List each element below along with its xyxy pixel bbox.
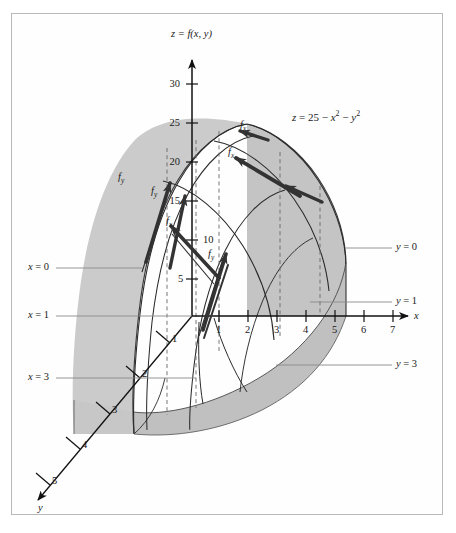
z-tick-label-5: 5 (178, 274, 183, 285)
trace-label-x0-value: 0 (44, 261, 49, 272)
x-tick-label-2: 2 (245, 325, 250, 336)
surface-equation: z = 25 − x2 − y2 (292, 110, 360, 123)
x-tick-label-1: 1 (216, 325, 221, 336)
trace-label-y1-var: y (396, 295, 401, 306)
trace-label-x1-value: 1 (44, 309, 49, 320)
fx-top-right-sub: x (243, 124, 246, 133)
y-tick-label-5: 5 (52, 476, 57, 487)
trace-label-y3-var: y (396, 358, 401, 369)
derivative-label-fx-center: fx (166, 216, 172, 228)
z-tick-label-10: 10 (203, 235, 214, 246)
trace-label-y3: y = 3 (396, 359, 417, 370)
trace-label-y3-eq: = (403, 358, 412, 369)
fy-lower-center-sub: y (211, 253, 214, 262)
x-tick-label-3: 3 (274, 325, 279, 336)
equation-lhs: z (292, 111, 296, 123)
equation-exp-x: 2 (336, 109, 340, 118)
trace-label-y0-eq: = (403, 241, 412, 252)
trace-label-x0-var: x (28, 261, 33, 272)
tangent-fy-left-inner (170, 196, 185, 268)
derivative-label-fy-lower-center: fy (208, 249, 214, 261)
trace-label-y1: y = 1 (396, 296, 417, 307)
trace-label-y0: y = 0 (396, 242, 417, 253)
trace-label-y1-value: 1 (412, 295, 417, 306)
fy-left-inner-sub: y (154, 190, 157, 199)
derivative-label-fx-upper-mid: fx (228, 147, 234, 159)
derivative-label-fy-left-inner: fy (151, 186, 157, 198)
y-axis-label: y (38, 503, 43, 514)
derivative-label-fx-top-right: fx (240, 120, 246, 132)
figure-container: z = f(x, y) x y 30 25 20 15 10 5 1 2 3 4… (0, 0, 456, 533)
x-axis-label: x (414, 311, 419, 322)
y-tick-label-4: 4 (82, 440, 87, 451)
trace-label-x1-eq: = (35, 309, 44, 320)
fy-far-left-sub: y (121, 176, 124, 185)
fx-upper-mid-sub: x (231, 151, 234, 160)
trace-label-x1-var: x (28, 309, 33, 320)
z-axis-label: z = f(x, y) (171, 29, 212, 40)
y-tick-label-3: 3 (112, 405, 117, 416)
y-tick-label-2: 2 (142, 369, 147, 380)
equation-minus-1: − (322, 111, 331, 123)
trace-label-y1-eq: = (403, 295, 412, 306)
paraboloid-surface (73, 119, 346, 435)
trace-label-x0-eq: = (35, 261, 44, 272)
trace-label-x3-eq: = (35, 371, 44, 382)
surface-plot (0, 0, 456, 533)
trace-label-y0-var: y (396, 241, 401, 252)
y-tick-label-1: 1 (172, 334, 177, 345)
z-tick-label-30: 30 (166, 79, 180, 90)
z-tick-label-20: 20 (166, 157, 180, 168)
trace-label-x3-var: x (28, 371, 33, 382)
equation-equals: = (299, 111, 308, 123)
x-tick-label-4: 4 (303, 325, 308, 336)
trace-label-y0-value: 0 (412, 241, 417, 252)
derivative-label-fy-far-left: fy (118, 172, 124, 184)
trace-label-y3-value: 3 (412, 358, 417, 369)
equation-exp-y: 2 (356, 109, 360, 118)
trace-label-x3: x = 3 (28, 372, 49, 383)
z-tick-label-25: 25 (166, 118, 180, 129)
trace-label-x1: x = 1 (28, 310, 49, 321)
x-tick-label-5: 5 (332, 325, 337, 336)
equation-minus-2: − (342, 111, 351, 123)
fx-center-sub: x (169, 220, 172, 229)
x-tick-label-6: 6 (361, 325, 366, 336)
trace-label-x0: x = 0 (28, 262, 49, 273)
x-tick-label-7: 7 (390, 325, 395, 336)
z-tick-label-15: 15 (166, 196, 180, 207)
trace-label-x3-value: 3 (44, 371, 49, 382)
equation-constant: 25 (308, 111, 319, 123)
